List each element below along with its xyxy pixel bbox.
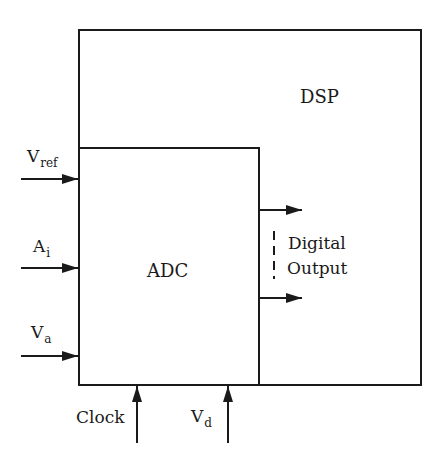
adc-label: ADC [147,262,188,280]
input-label-va: Va [31,324,51,341]
clock-label: Clock [76,409,125,426]
digital-output-label-line1: Digital [288,235,346,252]
digital-output-label-line2: Output [287,260,347,277]
dsp-block [79,30,421,385]
dsp-label: DSP [300,88,339,106]
block-diagram [0,0,447,463]
input-label-vref: Vref [27,148,58,165]
input-label-ai: Ai [33,238,50,255]
vd-label: Vd [191,408,212,425]
